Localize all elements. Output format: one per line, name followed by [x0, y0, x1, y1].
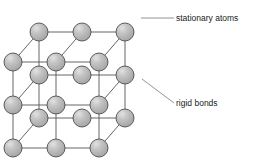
atom	[47, 139, 65, 157]
atom	[30, 109, 48, 127]
lattice-diagram	[0, 0, 256, 166]
atom	[90, 96, 108, 114]
leader-line-layer	[141, 18, 174, 103]
atom	[73, 23, 91, 41]
atom	[90, 139, 108, 157]
atom	[4, 139, 22, 157]
label-rigid-bonds: rigid bonds	[176, 99, 218, 108]
label-stationary-atoms: stationary atoms	[176, 14, 238, 23]
atom	[47, 53, 65, 71]
atom	[73, 109, 91, 127]
atom	[73, 66, 91, 84]
atom	[47, 96, 65, 114]
atom	[30, 66, 48, 84]
atom	[4, 53, 22, 71]
leader-line-rigid-bonds	[142, 79, 174, 103]
bond-layer	[13, 32, 125, 148]
atom	[4, 96, 22, 114]
atom	[90, 53, 108, 71]
atom	[116, 109, 134, 127]
atom	[30, 23, 48, 41]
atom	[116, 23, 134, 41]
lattice-figure: stationary atoms rigid bonds	[0, 0, 256, 166]
atom-layer	[4, 23, 134, 157]
atom	[116, 66, 134, 84]
